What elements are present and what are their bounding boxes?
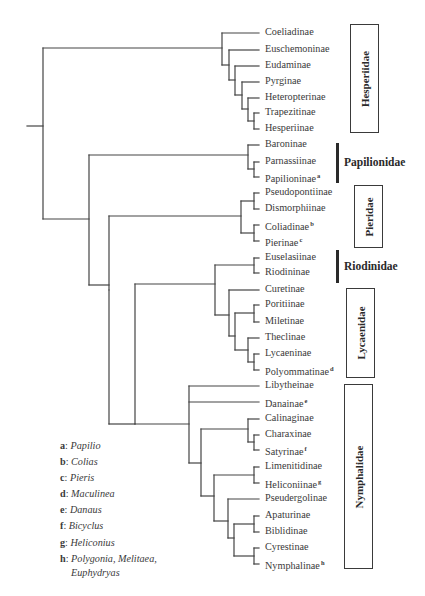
leaf-biblidinae: Biblidinae <box>265 525 307 537</box>
leaf-label-text: Pseudopontiinae <box>265 186 332 197</box>
leaf-label-text: Satyrinae <box>265 446 303 457</box>
leaf-cyrestinae: Cyrestinae <box>265 541 309 553</box>
leaf-label-text: Euselasiinae <box>265 251 316 262</box>
leaf-label-text: Poritiinae <box>265 298 305 309</box>
leaf-pyrginae: Pyrginae <box>265 75 301 87</box>
leaf-label-text: Lycaeninae <box>265 347 311 358</box>
leaf-theclinae: Theclinae <box>265 331 305 343</box>
leaf-label-text: Biblidinae <box>265 525 307 536</box>
legend-item-f: f: Bicyclus <box>60 518 157 534</box>
family-label: Lycaenidae <box>355 306 367 359</box>
leaf-label-text: Miletinae <box>265 315 304 326</box>
leaf-parnassiinae: Parnassiinae <box>265 155 316 167</box>
legend-item-a: a: Papilio <box>60 438 157 454</box>
leaf-euselasiinae: Euselasiinae <box>265 251 316 263</box>
leaf-label-text: Coliadinae <box>265 221 309 232</box>
legend-genus: Pieris <box>70 472 94 483</box>
leaf-charaxinae: Charaxinae <box>265 428 311 440</box>
leaf-label-text: Nymphalinae <box>265 560 320 571</box>
leaf-pierinae: Pierinaec <box>265 234 302 249</box>
footnote-marker: g <box>318 478 321 485</box>
family-label: Hesperiidae <box>359 50 371 106</box>
leaf-heteropterinae: Heteropterinae <box>265 91 326 103</box>
leaf-calinaginae: Calinaginae <box>265 412 314 424</box>
leaf-label-text: Limenitidinae <box>265 460 322 471</box>
legend-genus: Colias <box>71 456 98 467</box>
leaf-label-text: Dismorphiinae <box>265 202 326 213</box>
legend-genus-continued: Euphydryas <box>60 567 157 579</box>
legend-item-b: b: Colias <box>60 454 157 470</box>
legend-genus: Danaus <box>70 504 102 515</box>
legend-genus: Bicyclus <box>69 520 104 531</box>
leaf-apaturinae: Apaturinae <box>265 509 310 521</box>
leaf-label-text: Pseudergolinae <box>265 492 327 503</box>
leaf-label-text: Heteropterinae <box>265 91 326 102</box>
family-label-riodinidae: Riodinidae <box>344 260 398 272</box>
leaf-lycaeninae: Lycaeninae <box>265 347 311 359</box>
leaf-coeliadinae: Coeliadinae <box>265 26 314 38</box>
family-bar-riodinidae <box>336 250 339 283</box>
leaf-label-text: Parnassiinae <box>265 155 316 166</box>
leaf-riodininae: Riodininae <box>265 266 310 278</box>
legend-genus: Polygonia, Melitaea, <box>71 553 157 564</box>
leaf-eudaminae: Eudaminae <box>265 59 311 71</box>
leaf-euschemoninae: Euschemoninae <box>265 43 330 55</box>
footnote-marker: a <box>317 172 320 179</box>
family-box-lycaenidae: Lycaenidae <box>346 288 375 378</box>
leaf-pseudergolinae: Pseudergolinae <box>265 492 327 504</box>
leaf-label-text: Heliconiinae <box>265 479 317 490</box>
leaf-label-text: Pyrginae <box>265 75 301 86</box>
leaf-label-text: Hesperiinae <box>265 122 314 133</box>
family-box-hesperiidae: Hesperiidae <box>350 24 379 133</box>
legend: a: Papiliob: Coliasc: Pierisd: Maculinea… <box>60 438 157 579</box>
leaf-dismorphiinae: Dismorphiinae <box>265 202 326 214</box>
leaf-hesperiinae: Hesperiinae <box>265 122 314 134</box>
leaf-label-text: Eudaminae <box>265 59 311 70</box>
leaf-limenitidinae: Limenitidinae <box>265 460 322 472</box>
legend-genus: Papilio <box>70 440 100 451</box>
leaf-label-text: Euschemoninae <box>265 43 330 54</box>
family-box-nymphalidae: Nymphalidae <box>344 384 373 569</box>
leaf-nymphalinae: Nymphalinaeh <box>265 557 325 572</box>
footnote-marker: d <box>330 365 334 372</box>
leaf-coliadinae: Coliadinaeb <box>265 218 314 233</box>
leaf-label-text: Danainae <box>265 398 303 409</box>
legend-item-d: d: Maculinea <box>60 486 157 502</box>
family-label: Pieridae <box>363 197 375 236</box>
legend-item-c: c: Pieris <box>60 470 157 486</box>
leaf-label-text: Trapezitinae <box>265 106 316 117</box>
leaf-baroninae: Baroninae <box>265 138 307 150</box>
leaf-label-text: Papilioninae <box>265 173 316 184</box>
leaf-label-text: Theclinae <box>265 331 305 342</box>
footnote-marker: c <box>299 236 302 243</box>
family-label: Nymphalidae <box>353 445 365 508</box>
leaf-label-text: Pierinae <box>265 237 298 248</box>
leaf-poritiinae: Poritiinae <box>265 298 305 310</box>
footnote-marker: f <box>304 445 306 452</box>
leaf-danainae: Danainaee <box>265 395 307 410</box>
leaf-label-text: Riodininae <box>265 266 310 277</box>
leaf-curetinae: Curetinae <box>265 283 305 295</box>
leaf-satyrinae: Satyrinaef <box>265 443 307 458</box>
leaf-polyommatinae: Polyommatinaed <box>265 363 334 378</box>
leaf-libytheinae: Libytheinae <box>265 379 314 391</box>
legend-item-e: e: Danaus <box>60 502 157 518</box>
footnote-marker: h <box>321 559 325 566</box>
footnote-marker: e <box>304 397 307 404</box>
leaf-pseudopontiinae: Pseudopontiinae <box>265 186 332 198</box>
leaf-label-text: Coeliadinae <box>265 26 314 37</box>
family-box-pieridae: Pieridae <box>354 185 383 248</box>
legend-item-g: g: Heliconius <box>60 535 157 551</box>
leaf-trapezitinae: Trapezitinae <box>265 106 316 118</box>
leaf-label-text: Curetinae <box>265 283 305 294</box>
leaf-label-text: Charaxinae <box>265 428 311 439</box>
family-bar-papilionidae <box>336 143 339 183</box>
leaf-label-text: Calinaginae <box>265 412 314 423</box>
leaf-label-text: Polyommatinae <box>265 366 329 377</box>
footnote-marker: b <box>310 220 314 227</box>
leaf-miletinae: Miletinae <box>265 315 304 327</box>
leaf-papilioninae: Papilioninaea <box>265 170 320 185</box>
family-label-papilionidae: Papilionidae <box>344 156 405 168</box>
legend-genus: Maculinea <box>71 488 115 499</box>
legend-item-h: h: Polygonia, Melitaea, <box>60 551 157 567</box>
